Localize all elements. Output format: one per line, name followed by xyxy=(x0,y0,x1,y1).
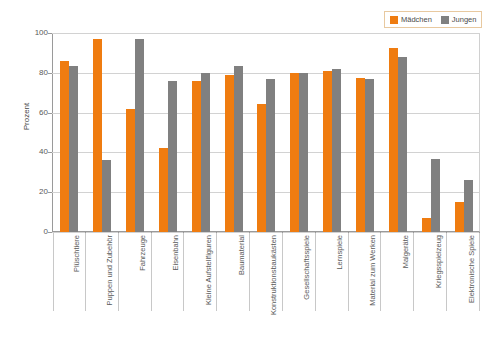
y-axis-tick-mark xyxy=(48,73,52,74)
bar-group xyxy=(283,33,316,232)
bar-chart: Mädchen Jungen Prozent 100806040200 Plüs… xyxy=(0,0,496,354)
bar-maedchen xyxy=(192,81,201,232)
x-axis-label: Plüschtiere xyxy=(72,235,81,272)
bar-jungen xyxy=(168,81,177,232)
bar-group xyxy=(316,33,349,232)
legend-swatch-jungen xyxy=(441,16,449,24)
y-axis-tick-label: 60 xyxy=(18,109,48,117)
bar-maedchen xyxy=(159,148,168,232)
x-axis-label-cell: Baumaterial xyxy=(217,233,250,351)
bar-jungen xyxy=(398,57,407,232)
bar-maedchen xyxy=(126,109,135,232)
bar-jungen xyxy=(201,73,210,232)
bar-maedchen xyxy=(225,75,234,232)
bar-jungen xyxy=(464,180,473,232)
x-axis-label-cell: Malgeräte xyxy=(381,233,414,351)
bar-maedchen xyxy=(389,48,398,232)
legend-label-maedchen: Mädchen xyxy=(401,16,432,24)
bar-jungen xyxy=(266,79,275,232)
y-axis-tick-mark xyxy=(48,33,52,34)
bar-series-container xyxy=(53,33,480,232)
x-axis-label-cell: Lernspiele xyxy=(316,233,349,351)
x-axis-label-cell: Kleine Aufstellfiguren xyxy=(184,233,217,351)
x-axis-label-cell: Material zum Werken xyxy=(349,233,382,351)
y-axis-tick-mark xyxy=(48,113,52,114)
bar-group xyxy=(414,33,447,232)
x-axis-label: Puppen und Zubehör xyxy=(105,235,114,305)
x-axis-label-divider xyxy=(479,233,480,311)
x-axis-label-cell: Puppen und Zubehör xyxy=(86,233,119,351)
x-axis-label: Gesellschaftsspiele xyxy=(302,235,311,300)
y-axis-tick-label: 80 xyxy=(18,69,48,77)
y-axis-tick-mark xyxy=(48,192,52,193)
bar-jungen xyxy=(135,39,144,232)
bar-jungen xyxy=(102,160,111,232)
bar-jungen xyxy=(332,69,341,232)
x-axis-label-cell: Fahrzeuge xyxy=(119,233,152,351)
chart-legend: Mädchen Jungen xyxy=(384,11,482,28)
x-axis-label: Kleine Aufstellfiguren xyxy=(204,235,213,305)
x-axis-label-cell: Gesellschaftsspiele xyxy=(283,233,316,351)
plot-area: 100806040200 xyxy=(52,33,480,232)
x-axis-label-cell: Kriegsspielzeug xyxy=(414,233,447,351)
bar-jungen xyxy=(431,159,440,232)
bar-maedchen xyxy=(257,104,266,232)
x-axis-label-divider xyxy=(53,233,54,311)
bar-group xyxy=(250,33,283,232)
x-axis-label-cell: Eisenbahn xyxy=(152,233,185,351)
x-axis-label: Fahrzeuge xyxy=(138,235,147,271)
y-axis-tick-label: 0 xyxy=(18,228,48,236)
bar-group xyxy=(119,33,152,232)
bar-group xyxy=(184,33,217,232)
x-axis-label-cell: Plüschtiere xyxy=(53,233,86,351)
bar-group xyxy=(86,33,119,232)
legend-entry-maedchen: Mädchen xyxy=(390,16,432,24)
bar-group xyxy=(381,33,414,232)
bar-group xyxy=(447,33,480,232)
x-axis-labels: PlüschtierePuppen und ZubehörFahrzeugeEi… xyxy=(53,233,480,351)
x-axis-label: Kriegsspielzeug xyxy=(434,235,443,288)
bar-maedchen xyxy=(323,71,332,232)
x-axis-label-cell: Elektronische Spiele xyxy=(447,233,480,351)
bar-jungen xyxy=(234,66,243,232)
bar-maedchen xyxy=(290,73,299,232)
x-axis-label: Lernspiele xyxy=(335,235,344,270)
bar-group xyxy=(349,33,382,232)
legend-swatch-maedchen xyxy=(390,16,398,24)
legend-label-jungen: Jungen xyxy=(452,16,477,24)
y-axis-tick-label: 40 xyxy=(18,148,48,156)
bar-maedchen xyxy=(93,39,102,232)
bar-group xyxy=(152,33,185,232)
bar-group xyxy=(53,33,86,232)
bar-jungen xyxy=(365,79,374,232)
x-axis-label: Material zum Werken xyxy=(368,235,377,306)
bar-maedchen xyxy=(60,61,69,232)
legend-entry-jungen: Jungen xyxy=(441,16,477,24)
x-axis-label: Baumaterial xyxy=(237,235,246,275)
x-axis-label-cell: Konstruktionsbaukästen xyxy=(250,233,283,351)
y-axis-tick-label: 100 xyxy=(18,29,48,37)
x-axis-label: Konstruktionsbaukästen xyxy=(269,235,278,315)
bar-maedchen xyxy=(422,218,431,232)
y-axis-tick-label: 20 xyxy=(18,188,48,196)
x-axis-label: Eisenbahn xyxy=(171,235,180,270)
x-axis-label: Malgeräte xyxy=(401,235,410,268)
y-axis-tick-mark xyxy=(48,232,52,233)
bar-maedchen xyxy=(455,202,464,232)
bar-group xyxy=(217,33,250,232)
y-axis-tick-mark xyxy=(48,152,52,153)
bar-jungen xyxy=(299,73,308,232)
x-axis-label: Elektronische Spiele xyxy=(467,235,476,303)
bar-maedchen xyxy=(356,78,365,232)
bar-jungen xyxy=(69,66,78,232)
